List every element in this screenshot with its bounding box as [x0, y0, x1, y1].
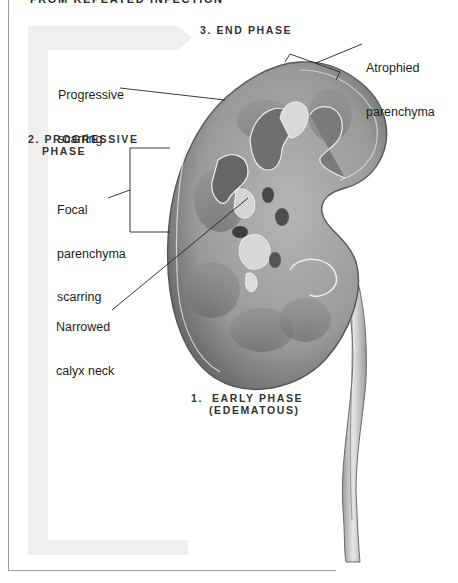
label-narrowed-calyx-neck: Narrowed calyx neck: [56, 291, 114, 393]
label-atrophied-parenchyma: Atrophied parenchyma: [366, 32, 435, 134]
phase-label-early-line2: (EDEMATOUS): [209, 404, 300, 416]
phase-label-early-line1: 1. EARLY PHASE: [191, 392, 303, 404]
label-progressive-scarring: Progressive scarring: [58, 59, 124, 161]
phase-label-end: 3. END PHASE: [200, 24, 292, 36]
